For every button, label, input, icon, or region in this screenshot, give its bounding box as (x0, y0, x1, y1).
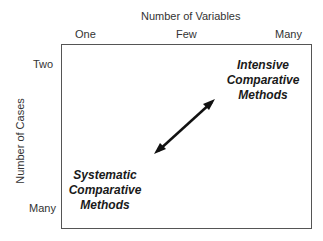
double-arrow-icon (0, 0, 323, 241)
